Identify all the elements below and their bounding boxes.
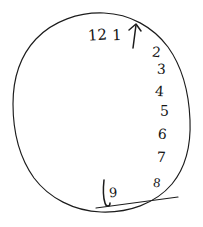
clock-number-1: 1 [112,28,122,43]
clock-number-3: 3 [157,62,166,76]
clock-number-12: 12 [88,27,108,43]
clock-number-6: 6 [157,127,167,142]
clock-number-5: 5 [160,104,169,118]
clock-number-4: 4 [155,84,165,99]
clock-number-2: 2 [151,45,161,60]
clock-drawing-image: 12 1 2 3 4 5 6 7 8 9 [0,0,203,227]
clock-number-7: 7 [157,150,166,164]
clock-number-9: 9 [109,186,118,199]
hand-pointing-to-one [133,25,136,48]
